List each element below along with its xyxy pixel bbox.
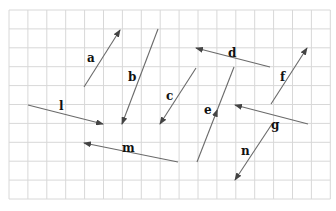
vector-label-c: c [166,89,173,103]
vector-grid-diagram: abcdefgnml [0,0,336,211]
vector-label-g: g [271,118,280,132]
vector-e-line [217,67,234,110]
vector-e-arrow [197,110,217,162]
vector-label-b: b [128,70,136,84]
vector-label-a: a [87,51,95,65]
vector-f-arrow [271,48,307,104]
vector-label-d: d [228,46,237,60]
vector-label-f: f [280,70,286,84]
vector-label-e: e [204,103,212,117]
grid-paper [9,10,330,199]
vector-label-l: l [59,99,64,113]
vector-label-m: m [122,141,135,155]
vector-label-n: n [241,144,250,158]
